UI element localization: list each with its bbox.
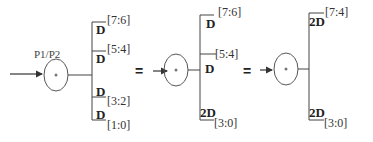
register-d: D [96, 108, 105, 121]
equals-sign: = [243, 64, 251, 78]
register-d: D [96, 85, 105, 98]
register-d: D [206, 17, 215, 30]
register-d: D [96, 52, 105, 65]
bit-range: [7:6] [107, 14, 130, 26]
bit-range: [5:4] [215, 48, 238, 60]
equals-sign: = [135, 64, 143, 78]
bit-range: [3:0] [214, 117, 237, 129]
bit-range: [3:2] [107, 95, 130, 107]
register-2d: 2D [309, 15, 325, 28]
register-2d: 2D [309, 106, 325, 119]
diagram-canvas: P1/P2 D [7:6] D [5:4] D [3:2] D [1:0] = … [0, 0, 373, 142]
bit-range: [3:0] [324, 117, 347, 129]
group1-lines [10, 22, 106, 120]
bit-range: [7:4] [325, 6, 348, 18]
node-label: P1/P2 [34, 49, 60, 60]
register-d: D [96, 23, 105, 36]
register-d: D [205, 62, 214, 75]
bit-range: [1:0] [107, 119, 130, 131]
bit-range: [7:6] [218, 6, 241, 18]
group3-lines [260, 13, 324, 120]
bit-range: [5:4] [107, 43, 130, 55]
